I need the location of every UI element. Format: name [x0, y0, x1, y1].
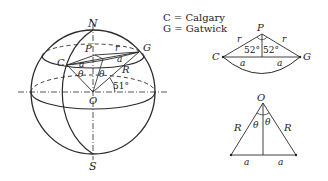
- tri2-apex-label: O: [257, 92, 265, 103]
- sphere-figure: N S O P C G r a a θ θ R 51°: [18, 17, 168, 173]
- tri1-base-right: a: [277, 58, 282, 68]
- theta-right: θ: [99, 69, 105, 79]
- half-chord-right: a: [117, 54, 122, 64]
- gatwick-label: G: [143, 42, 151, 53]
- center-label: O: [89, 95, 97, 106]
- tri1-side-left: r: [237, 34, 242, 44]
- tri1-left-label: C: [212, 51, 220, 62]
- tri2-side-right-label: R: [283, 122, 292, 133]
- small-radius-label: r: [115, 43, 120, 53]
- radius-label: R: [121, 64, 130, 75]
- tri2-base-right: a: [278, 157, 283, 167]
- theta-left: θ: [78, 69, 84, 79]
- tri2-point-right: [295, 154, 297, 156]
- latitude-angle-label: 51°: [113, 81, 129, 91]
- tri1-point-c: [222, 56, 224, 58]
- tri1-point-g: [299, 56, 301, 58]
- legend-calgary: C = Calgary: [163, 12, 225, 23]
- tri2-base-left: a: [244, 157, 249, 167]
- diagram-canvas: N S O P C G r a a θ θ R 51° C = Calgary …: [0, 0, 328, 181]
- south-label: S: [89, 160, 97, 173]
- center-triangle: O R R θ θ a a: [230, 92, 297, 167]
- tri2-theta-left: θ: [253, 120, 259, 130]
- pole-label: P: [84, 43, 92, 54]
- tri2-theta-right: θ: [265, 117, 271, 127]
- tri1-angle-left: 52°: [244, 45, 260, 55]
- half-chord-left: a: [79, 59, 84, 69]
- line-p-mid: [95, 55, 103, 59]
- tri2-point-left: [230, 154, 232, 156]
- tri1-base-left: a: [240, 58, 245, 68]
- tri2-side-left-label: R: [233, 122, 242, 133]
- calgary-label: C: [57, 57, 65, 68]
- legend-gatwick: G = Gatwick: [163, 23, 228, 34]
- legend: C = Calgary G = Gatwick: [163, 12, 228, 34]
- tri1-side-right: r: [282, 34, 287, 44]
- tri1-arc: [223, 57, 300, 74]
- tri1-apex-label: P: [256, 22, 264, 33]
- tri1-angle-right: 52°: [263, 45, 279, 55]
- tri1-right-label: G: [303, 51, 311, 62]
- north-label: N: [87, 17, 98, 30]
